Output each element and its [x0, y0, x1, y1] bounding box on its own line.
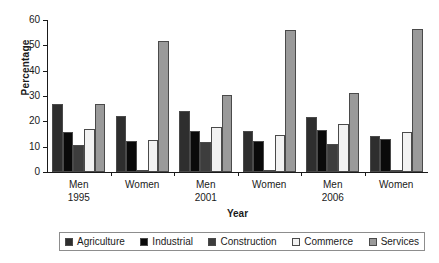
- bar: [275, 135, 286, 172]
- x-tick-label-line1: Men: [69, 179, 88, 190]
- legend-item[interactable]: Construction: [208, 236, 276, 247]
- x-tick-label-line1: Women: [125, 179, 159, 190]
- bar: [190, 131, 201, 172]
- x-tick-label: Men2001: [174, 178, 238, 204]
- bar-group: [179, 20, 232, 172]
- bar: [211, 127, 222, 172]
- x-tick-mark: [238, 172, 239, 176]
- y-tick-mark: [43, 20, 47, 21]
- legend-swatch-icon: [292, 238, 300, 246]
- bar: [285, 30, 296, 172]
- y-tick-mark: [43, 71, 47, 72]
- bar: [73, 145, 84, 172]
- legend-swatch-icon: [140, 238, 148, 246]
- bar-group: [306, 20, 359, 172]
- bar: [158, 41, 169, 172]
- bar-chart: Percentage 0102030405060 Men1995WomenMen…: [0, 0, 439, 263]
- y-axis-line: [47, 20, 48, 172]
- legend-label: Commerce: [304, 236, 353, 247]
- bar-group: [116, 20, 169, 172]
- x-tick-label: Women: [238, 178, 302, 191]
- bar: [412, 29, 423, 172]
- bar: [306, 117, 317, 172]
- x-tick-mark: [365, 172, 366, 176]
- x-tick-label: Women: [365, 178, 429, 191]
- y-tick-mark: [43, 121, 47, 122]
- bar: [148, 140, 159, 172]
- x-tick-label-line1: Men: [323, 179, 342, 190]
- chart-legend: AgricultureIndustrialConstructionCommerc…: [59, 232, 425, 251]
- bar: [52, 104, 63, 172]
- bar: [402, 132, 413, 172]
- legend-swatch-icon: [369, 238, 377, 246]
- bar: [338, 124, 349, 172]
- x-tick-label: Men2006: [301, 178, 365, 204]
- legend-label: Industrial: [152, 236, 193, 247]
- y-tick-label: 20: [29, 116, 40, 126]
- y-tick-label: 40: [29, 66, 40, 76]
- bar: [222, 95, 233, 172]
- x-tick-label-line2: 2001: [174, 191, 238, 204]
- x-tick-label: Women: [111, 178, 175, 191]
- legend-item[interactable]: Services: [369, 236, 419, 247]
- y-tick-mark: [43, 147, 47, 148]
- legend-label: Construction: [220, 236, 276, 247]
- plot-area: 0102030405060: [47, 20, 428, 172]
- bar: [370, 136, 381, 172]
- bar: [391, 170, 402, 172]
- bar: [264, 170, 275, 172]
- y-tick-mark: [43, 172, 47, 173]
- legend-swatch-icon: [208, 238, 216, 246]
- x-tick-label-line1: Women: [379, 179, 413, 190]
- bar: [63, 132, 74, 172]
- x-tick-mark: [301, 172, 302, 176]
- bar: [95, 104, 106, 172]
- legend-swatch-icon: [65, 238, 73, 246]
- bar: [243, 131, 254, 172]
- bar: [253, 141, 264, 172]
- bar-group: [370, 20, 423, 172]
- x-axis-title: Year: [47, 208, 428, 219]
- legend-item[interactable]: Commerce: [292, 236, 353, 247]
- legend-label: Services: [381, 236, 419, 247]
- bar: [380, 139, 391, 172]
- bar-group: [52, 20, 105, 172]
- legend-item[interactable]: Industrial: [140, 236, 193, 247]
- x-tick-mark: [174, 172, 175, 176]
- y-tick-label: 60: [29, 15, 40, 25]
- legend-item[interactable]: Agriculture: [65, 236, 125, 247]
- bar-group: [243, 20, 296, 172]
- y-tick-label: 0: [34, 167, 40, 177]
- y-tick-label: 10: [29, 142, 40, 152]
- bar: [317, 130, 328, 172]
- y-tick-mark: [43, 45, 47, 46]
- bar: [126, 141, 137, 172]
- bar: [116, 116, 127, 172]
- x-tick-label-line1: Women: [252, 179, 286, 190]
- bar: [200, 142, 211, 172]
- y-tick-mark: [43, 96, 47, 97]
- x-tick-label: Men1995: [47, 178, 111, 204]
- bar: [349, 93, 360, 172]
- bar: [179, 111, 190, 172]
- bar: [137, 170, 148, 172]
- legend-label: Agriculture: [77, 236, 125, 247]
- bar: [327, 144, 338, 172]
- x-tick-label-line2: 2006: [301, 191, 365, 204]
- bar: [84, 129, 95, 172]
- x-tick-label-line1: Men: [196, 179, 215, 190]
- x-tick-label-line2: 1995: [47, 191, 111, 204]
- x-tick-mark: [111, 172, 112, 176]
- y-tick-label: 50: [29, 40, 40, 50]
- y-tick-label: 30: [29, 91, 40, 101]
